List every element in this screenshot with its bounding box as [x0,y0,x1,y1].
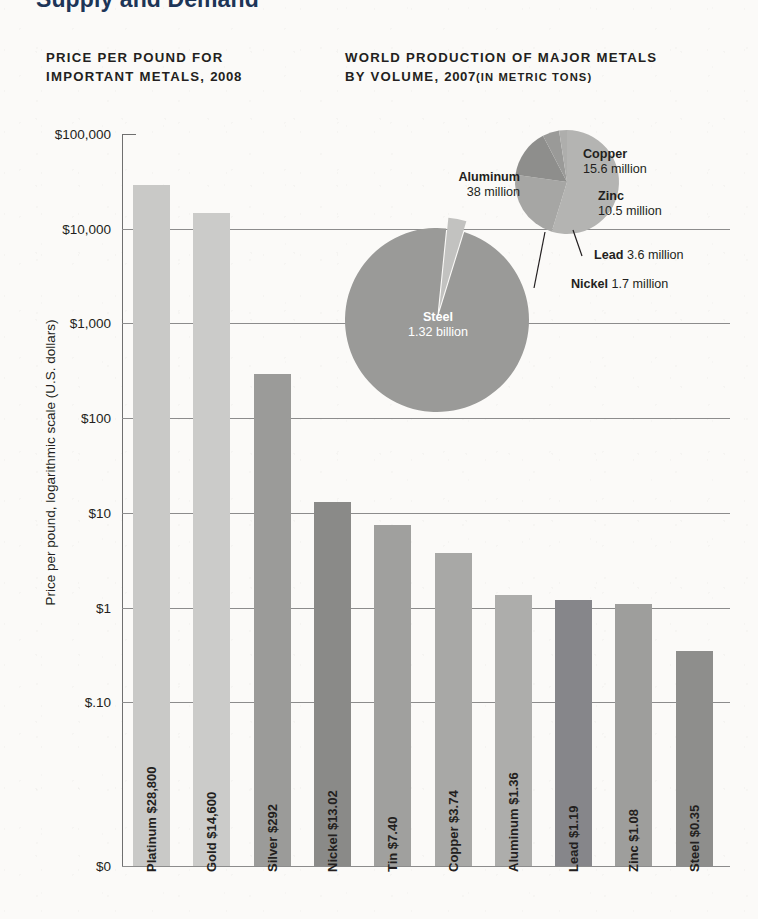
pie-chart-svg [0,0,758,919]
copper-slice-name: Copper [583,147,627,161]
zinc-slice-name: Zinc [598,189,624,203]
aluminum-slice-value: 38 million [467,185,520,199]
steel-slice-name: Steel [423,310,453,324]
pie-chart-group: Steel 1.32 billion Aluminum 38 million C… [0,0,758,919]
lead-slice-value: 3.6 million [627,248,684,262]
copper-slice-label: Copper 15.6 million [583,147,647,177]
nickel-leader-line [534,232,545,288]
steel-slice-label: Steel 1.32 billion [378,310,498,340]
nickel-slice-name: Nickel [571,277,608,291]
copper-slice-value: 15.6 million [583,162,647,176]
aluminum-slice-label: Aluminum 38 million [400,170,520,200]
lead-slice-name: Lead [594,248,623,262]
infographic-page: Supply and Demand PRICE PER POUND FOR IM… [0,0,758,919]
zinc-slice-value: 10.5 million [598,204,662,218]
steel-slice-value: 1.32 billion [408,325,468,339]
nickel-slice-value: 1.7 million [612,277,669,291]
zinc-slice-label: Zinc 10.5 million [598,189,662,219]
lead-slice-label: Lead 3.6 million [594,248,684,263]
aluminum-slice-name: Aluminum [458,170,520,184]
lead-leader-line [573,230,582,256]
nickel-slice-label: Nickel 1.7 million [571,277,668,292]
